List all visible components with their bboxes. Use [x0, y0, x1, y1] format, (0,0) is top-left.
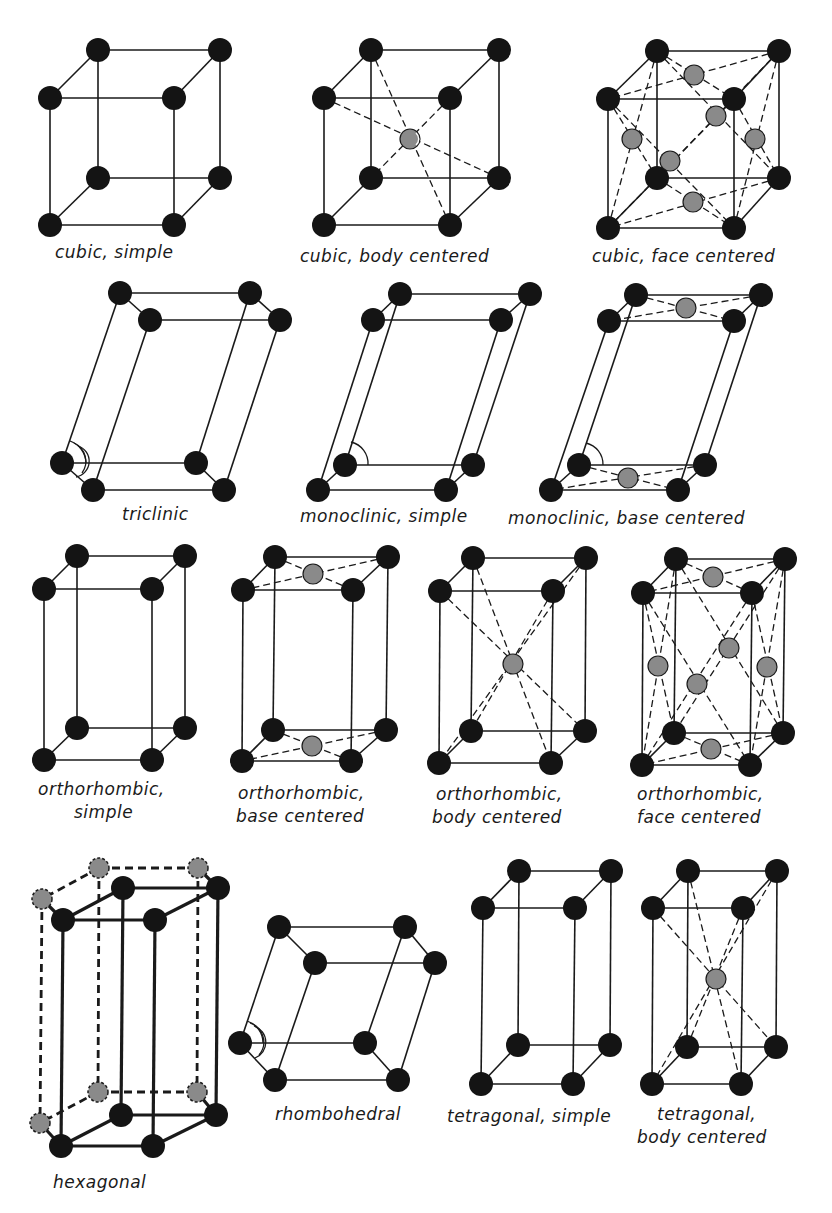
label-tetragonal-simple: tetragonal, simple	[447, 1106, 611, 1126]
lattice-triclinic: triclinic	[50, 281, 292, 524]
label-cubic-simple: cubic, simple	[55, 242, 173, 262]
label-monoclinic-simple: monoclinic, simple	[300, 506, 468, 526]
bravais-lattices-figure: cubic, simple cubic, body centered	[0, 0, 832, 1213]
label-rhombohedral: rhombohedral	[275, 1104, 401, 1124]
lattice-rhombohedral: rhombohedral	[228, 915, 447, 1124]
lattice-monoclinic-base-centered: monoclinic, base centered	[508, 283, 773, 528]
label-orthorhombic-simple-line2: simple	[74, 802, 133, 822]
lattice-tetragonal-body-centered: tetragonal, body centered	[637, 859, 789, 1147]
label-orthorhombic-face-centered-line1: orthorhombic,	[637, 784, 764, 804]
label-orthorhombic-simple-line1: orthorhombic,	[38, 779, 165, 799]
lattice-orthorhombic-base-centered: orthorhombic, base centered	[230, 545, 400, 826]
label-cubic-face-centered: cubic, face centered	[592, 246, 775, 266]
lattice-cubic-face-centered: cubic, face centered	[592, 39, 791, 266]
label-hexagonal: hexagonal	[53, 1172, 146, 1192]
label-triclinic: triclinic	[122, 504, 189, 524]
lattice-tetragonal-simple: tetragonal, simple	[447, 859, 623, 1126]
lattice-cubic-simple: cubic, simple	[38, 38, 232, 262]
label-tetragonal-body-centered-line2: body centered	[637, 1127, 767, 1147]
lattice-hexagonal: hexagonal	[30, 858, 230, 1192]
label-cubic-body-centered: cubic, body centered	[300, 246, 489, 266]
label-orthorhombic-body-centered-line2: body centered	[432, 807, 562, 827]
lattice-orthorhombic-simple: orthorhombic, simple	[32, 544, 197, 822]
label-monoclinic-base-centered: monoclinic, base centered	[508, 508, 745, 528]
label-orthorhombic-face-centered-line2: face centered	[637, 807, 761, 827]
label-tetragonal-body-centered-line1: tetragonal,	[657, 1104, 756, 1124]
label-orthorhombic-base-centered-line2: base centered	[236, 806, 364, 826]
lattice-orthorhombic-body-centered: orthorhombic, body centered	[427, 546, 598, 827]
lattice-cubic-body-centered: cubic, body centered	[300, 38, 511, 266]
label-orthorhombic-base-centered-line1: orthorhombic,	[238, 783, 365, 803]
lattice-monoclinic-simple: monoclinic, simple	[300, 282, 542, 526]
label-orthorhombic-body-centered-line1: orthorhombic,	[436, 784, 563, 804]
lattice-orthorhombic-face-centered: orthorhombic, face centered	[630, 547, 797, 827]
